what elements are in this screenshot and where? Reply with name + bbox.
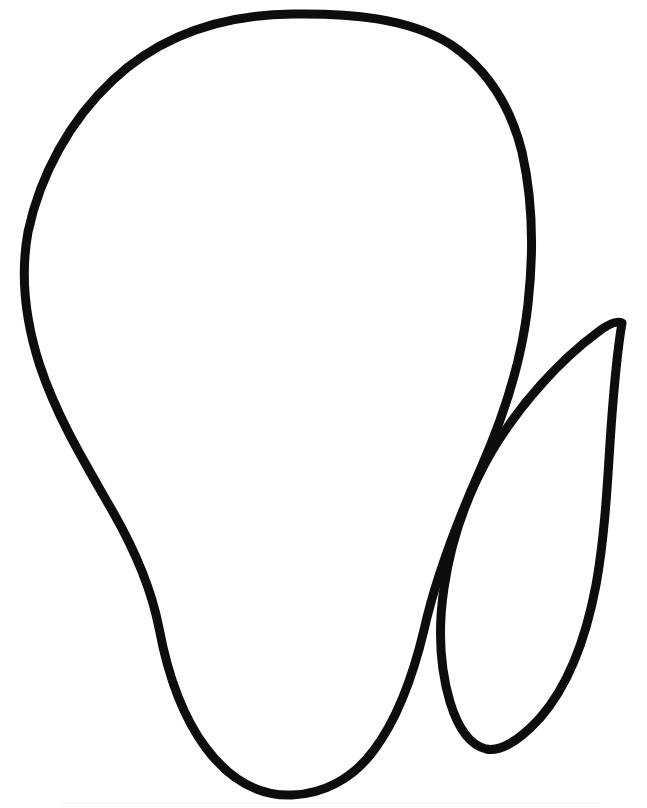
line-art-illustration (0, 0, 647, 808)
paper-speck-dot (590, 362, 594, 366)
artwork-canvas (0, 0, 647, 808)
background-rect (0, 0, 647, 808)
